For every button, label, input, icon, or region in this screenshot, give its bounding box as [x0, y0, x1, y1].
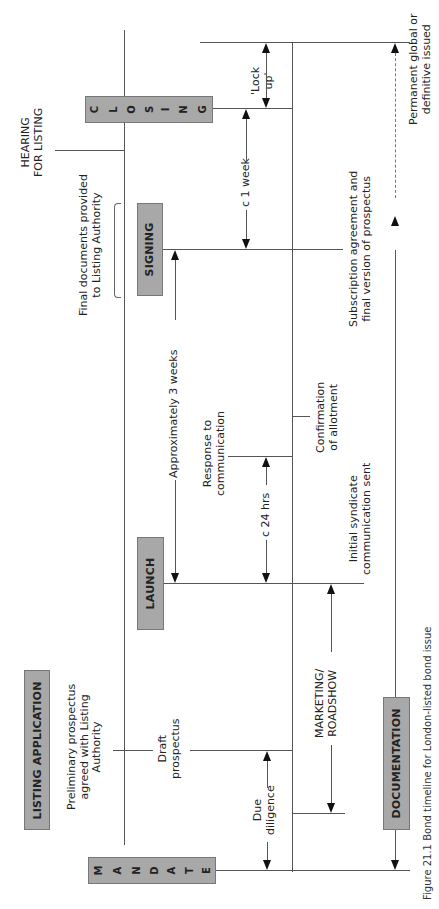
hearing-line1: HEARING: [20, 108, 33, 177]
due-diligence-arrow-line: [267, 760, 268, 788]
mandate-letter: E: [201, 867, 212, 874]
listing-application-box: LISTING APPLICATION: [24, 670, 50, 830]
launch-box: LAUNCH: [137, 537, 164, 630]
closing-letter: O: [126, 105, 137, 114]
preliminary-tick: [113, 750, 153, 751]
documentation-dashed-line: [395, 48, 396, 198]
subscription-line1: Subscription agreement and: [348, 171, 361, 327]
final-documents-brace: [114, 203, 121, 298]
subscription-line2: final version of prospectus: [361, 171, 374, 327]
permanent-line1: Permanent global or: [408, 13, 421, 125]
mandate-letter: M: [93, 866, 104, 876]
permanent-global-line: [200, 42, 410, 43]
main-timeline-line: [292, 42, 293, 872]
permanent-line2: definitive issued: [421, 13, 434, 125]
preliminary-line1: Preliminary prospectus: [66, 684, 79, 810]
marketing-line2: ROADSHOW: [327, 669, 340, 738]
final-documents-label: Final documents provided to Listing Auth…: [78, 174, 103, 316]
arrow-down-icon: [263, 860, 271, 870]
mandate-letter: A: [167, 867, 178, 875]
c1week-arrow-line: [246, 118, 247, 163]
due-line1: Due: [252, 785, 265, 835]
marketing-arrow-line: [331, 592, 332, 652]
mandate-letter: A: [112, 867, 123, 875]
closing-line: [213, 108, 292, 109]
documentation-arrow-line: [395, 830, 396, 860]
arrow-up-icon: [171, 250, 179, 260]
closing-letter: S: [144, 106, 155, 113]
closing-letter: I: [161, 108, 172, 112]
arrow-up-icon: [242, 109, 250, 119]
listing-track-line: [124, 30, 125, 845]
closing-letter: C: [90, 106, 101, 113]
confirmation-line2: of allotment: [328, 382, 341, 453]
hearing-line: [55, 150, 124, 151]
closing-letter: L: [107, 106, 118, 112]
figure-caption: Figure 21.1 Bond timeline for London-lis…: [422, 627, 434, 900]
arrow-up-icon: [263, 751, 271, 761]
arrow-up-icon: [391, 216, 399, 226]
arrow-up-icon: [391, 43, 399, 53]
approx-3-weeks-arrow-line: [175, 258, 176, 320]
c-1-week-label: c 1 week: [240, 158, 253, 207]
preliminary-line3: Authority: [91, 684, 104, 810]
initial-line1: Initial syndicate: [348, 463, 361, 575]
marketing-line1: MARKETING/: [314, 669, 327, 738]
approx-3-weeks-arrow-line-2: [175, 480, 176, 575]
response-to-communication-label: Response to communication: [202, 411, 227, 496]
lockup-line2: up': [263, 67, 276, 95]
due-line2: diligence: [265, 785, 278, 835]
c24-arrow-line-2: [266, 540, 267, 575]
documentation-label: DOCUMENTATION: [390, 708, 403, 818]
arrow-down-icon: [262, 98, 270, 108]
closing-letter: G: [197, 105, 208, 113]
hearing-line2: FOR LISTING: [33, 108, 46, 177]
subscription-agreement-label: Subscription agreement and final version…: [348, 171, 373, 327]
lock-up-label: 'Lock up': [250, 67, 275, 95]
mandate-box: M A N D A T E: [88, 857, 216, 884]
arrow-down-icon: [327, 803, 335, 813]
arrow-up-icon: [262, 457, 270, 467]
draft-prospectus-label: Draft prospectus: [157, 718, 182, 779]
marketing-end-line: [292, 813, 345, 814]
signing-label: SIGNING: [144, 223, 157, 277]
due-diligence-arrow-line-2: [267, 842, 268, 862]
confirmation-of-allotment-label: Confirmation of allotment: [315, 382, 340, 453]
lockup-arrow-line: [266, 50, 267, 100]
c1week-arrow-line-2: [246, 210, 247, 240]
initial-line2: communication sent: [361, 463, 374, 575]
marketing-arrow-line-2: [331, 745, 332, 805]
documentation-box: DOCUMENTATION: [383, 697, 410, 830]
arrow-down-icon: [242, 239, 250, 249]
mandate-letter: N: [130, 866, 141, 874]
permanent-global-label: Permanent global or definitive issued: [408, 13, 433, 125]
marketing-roadshow-label: MARKETING/ ROADSHOW: [314, 669, 339, 738]
draft-line2: prospectus: [170, 718, 183, 779]
arrow-down-icon: [171, 573, 179, 583]
c24-arrow-line: [266, 465, 267, 485]
approx-3-weeks-label: Approximately 3 weeks: [168, 350, 181, 478]
mandate-letter: T: [184, 867, 195, 874]
c-24-hrs-label: c 24 hrs: [260, 493, 273, 537]
confirmation-line1: Confirmation: [315, 382, 328, 453]
draft-line1: Draft: [157, 718, 170, 779]
documentation-track-line: [395, 250, 396, 697]
confirmation-tick: [292, 416, 310, 417]
listing-application-label: LISTING APPLICATION: [31, 681, 44, 819]
due-diligence-label: Due diligence: [252, 785, 277, 835]
mandate-line: [216, 870, 410, 871]
arrow-down-icon: [262, 573, 270, 583]
hearing-for-listing-label: HEARING FOR LISTING: [20, 108, 45, 177]
final-docs-line1: Final documents provided: [78, 174, 91, 316]
signing-box: SIGNING: [137, 203, 163, 296]
lockup-line1: 'Lock: [250, 67, 263, 95]
final-docs-line2: to Listing Authority: [91, 174, 104, 316]
arrow-down-icon: [391, 860, 399, 870]
preliminary-prospectus-label: Preliminary prospectus agreed with Listi…: [66, 684, 104, 810]
closing-box: C L O S I N G: [85, 96, 213, 123]
arrow-up-icon: [262, 43, 270, 53]
response-line1: Response to: [202, 411, 215, 496]
signing-line: [163, 249, 343, 250]
launch-label: LAUNCH: [144, 558, 157, 610]
draft-prospectus-line: [190, 750, 292, 751]
